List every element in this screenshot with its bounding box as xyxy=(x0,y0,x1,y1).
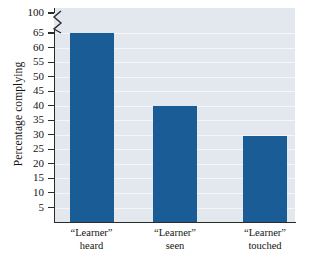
y-tick-label: 35 xyxy=(0,114,44,125)
y-tick-mark xyxy=(48,163,54,164)
y-tick-mark xyxy=(48,149,54,150)
y-tick-label: 15 xyxy=(0,172,44,183)
bar xyxy=(153,106,197,222)
x-axis-label-line2: heard xyxy=(47,239,137,252)
y-tick-mark xyxy=(48,105,54,106)
bar-chart: Percentage complying 5101520253035404550… xyxy=(0,0,310,260)
bar xyxy=(243,136,287,222)
y-tick-mark xyxy=(48,207,54,208)
y-tick-label: 100 xyxy=(0,7,44,18)
y-tick-label: 50 xyxy=(0,71,44,82)
y-tick-mark xyxy=(48,178,54,179)
y-tick-mark xyxy=(48,120,54,121)
y-axis-line xyxy=(54,30,55,222)
plot-area xyxy=(54,8,295,222)
x-axis-label: “Learner”touched xyxy=(220,226,310,252)
y-tick-mark xyxy=(48,12,54,13)
y-tick-label: 60 xyxy=(0,42,44,53)
x-axis-label-line1: “Learner” xyxy=(130,226,220,239)
y-tick-label: 25 xyxy=(0,143,44,154)
bar xyxy=(70,33,114,222)
y-tick-label: 40 xyxy=(0,100,44,111)
x-axis-label: “Learner”heard xyxy=(47,226,137,252)
y-tick-mark xyxy=(48,91,54,92)
bars-layer xyxy=(54,8,295,222)
x-axis-label: “Learner”seen xyxy=(130,226,220,252)
y-tick-mark xyxy=(48,192,54,193)
y-tick-label: 45 xyxy=(0,85,44,96)
y-tick-mark xyxy=(48,47,54,48)
axis-break-icon xyxy=(50,10,64,34)
y-tick-label: 30 xyxy=(0,129,44,140)
y-tick-label: 55 xyxy=(0,56,44,67)
y-tick-label: 20 xyxy=(0,158,44,169)
y-tick-mark xyxy=(48,76,54,77)
y-tick-mark xyxy=(48,32,54,33)
x-axis-label-line1: “Learner” xyxy=(47,226,137,239)
y-tick-label: 10 xyxy=(0,187,44,198)
x-axis-label-line2: seen xyxy=(130,239,220,252)
x-axis-label-line2: touched xyxy=(220,239,310,252)
y-tick-mark xyxy=(48,134,54,135)
y-tick-mark xyxy=(48,62,54,63)
x-axis-label-line1: “Learner” xyxy=(220,226,310,239)
y-tick-label: 65 xyxy=(0,27,44,38)
y-tick-label: 5 xyxy=(0,202,44,213)
x-axis-line xyxy=(54,222,296,223)
